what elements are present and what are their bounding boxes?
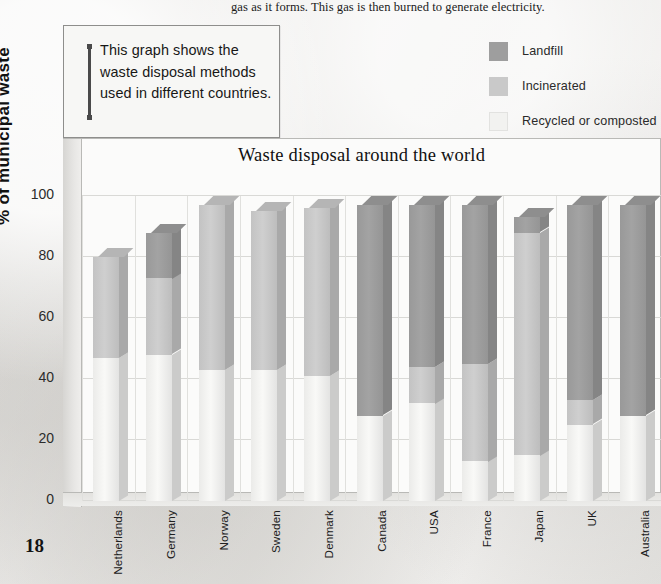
bar-side <box>435 200 444 367</box>
legend-swatch <box>489 77 508 96</box>
vertical-gridline <box>240 196 241 501</box>
bar-segment <box>462 461 488 501</box>
chart-title: Waste disposal around the world <box>63 145 660 166</box>
bar-face <box>409 205 435 367</box>
bar-face <box>514 233 540 456</box>
bar-column <box>251 196 277 501</box>
y-axis-tick-label: 20 <box>20 430 54 446</box>
bar-face <box>357 416 383 501</box>
bar-column <box>462 196 488 501</box>
y-axis-tick-label: 0 <box>20 491 54 507</box>
bar-side <box>540 450 549 501</box>
page-number: 18 <box>25 535 44 557</box>
bar-side <box>225 200 234 370</box>
bar-segment <box>146 355 172 501</box>
bar-side <box>540 227 549 455</box>
bar-face <box>567 400 593 424</box>
bar-segment <box>199 205 225 370</box>
vertical-gridline <box>82 196 83 501</box>
x-axis-label: Sweden <box>269 510 282 553</box>
bar-side <box>119 252 128 358</box>
legend-swatch <box>489 112 508 131</box>
bar-side <box>330 371 339 501</box>
chart-left-wall <box>63 139 82 507</box>
bar-face <box>93 257 119 358</box>
bar-column <box>514 196 540 501</box>
bar-segment <box>93 257 119 358</box>
bar-face <box>357 205 383 415</box>
bar-segment <box>251 211 277 370</box>
bar-face <box>251 370 277 501</box>
legend-label: Landfill <box>522 44 563 58</box>
bar-side <box>383 410 392 501</box>
bar-face <box>251 211 277 370</box>
bar-side <box>277 364 286 501</box>
vertical-gridline <box>503 196 504 501</box>
legend-item: Landfill <box>489 36 659 66</box>
bar-column <box>409 196 435 501</box>
bar-column <box>93 196 119 501</box>
legend-item: Recycled or composted <box>489 106 659 136</box>
bar-face <box>620 205 646 415</box>
chart-legend: LandfillIncineratedRecycled or composted <box>489 36 659 141</box>
legend-label: Recycled or composted <box>522 114 657 128</box>
bar-side <box>488 358 497 461</box>
bar-face <box>409 367 435 404</box>
y-axis-tick-label: 60 <box>20 308 54 324</box>
legend-swatch <box>489 42 508 61</box>
bar-side <box>435 398 444 501</box>
bar-segment <box>93 358 119 501</box>
bar-segment <box>199 370 225 501</box>
plot-area <box>82 196 661 501</box>
vertical-gridline <box>398 196 399 501</box>
bar-face <box>146 278 172 354</box>
bar-side <box>383 200 392 416</box>
bar-segment <box>567 400 593 424</box>
bar-side <box>435 361 444 403</box>
bar-column <box>620 196 646 501</box>
x-axis-label: Australia <box>638 510 651 557</box>
bar-segment <box>357 205 383 415</box>
bar-column <box>567 196 593 501</box>
x-axis-labels: NetherlandsGermanyNorwaySwedenDenmarkCan… <box>63 506 661 584</box>
bar-segment <box>514 455 540 501</box>
vertical-gridline <box>608 196 609 501</box>
x-axis-label: UK <box>585 510 598 527</box>
x-axis-label: Netherlands <box>111 510 124 575</box>
bar-segment <box>567 205 593 400</box>
y-axis-ticks: 020406080100 <box>18 195 54 501</box>
bar-column <box>357 196 383 501</box>
bar-segment <box>409 367 435 404</box>
bar-face <box>409 403 435 501</box>
x-axis-label: Denmark <box>322 510 335 558</box>
x-axis-label: Japan <box>532 510 545 543</box>
vertical-gridline <box>345 196 346 501</box>
bar-face <box>304 208 330 376</box>
bar-face <box>462 461 488 501</box>
bar-side <box>593 200 602 401</box>
bar-side <box>646 410 655 501</box>
bar-side <box>593 419 602 501</box>
body-paragraph: gas as it forms. This gas is then burned… <box>231 0 659 15</box>
bracket-icon <box>88 48 91 116</box>
bar-side <box>488 456 497 501</box>
bar-face <box>620 416 646 501</box>
bar-side <box>172 273 181 355</box>
bar-segment <box>514 233 540 456</box>
x-axis-label: USA <box>427 510 440 534</box>
y-axis-tick-label: 40 <box>20 369 54 385</box>
bar-face <box>462 364 488 462</box>
bar-side <box>172 349 181 501</box>
bar-face <box>567 425 593 501</box>
bar-side <box>172 227 181 278</box>
bar-side <box>646 200 655 416</box>
bar-segment <box>304 376 330 501</box>
bar-face <box>146 233 172 279</box>
vertical-gridline <box>556 196 557 501</box>
y-axis-title: % of municipal waste <box>0 47 14 225</box>
bar-segment <box>462 205 488 364</box>
bar-segment <box>251 370 277 501</box>
chart-frame: Waste disposal around the world Source: … <box>63 138 661 506</box>
bar-segment <box>357 416 383 501</box>
vertical-gridline <box>450 196 451 501</box>
